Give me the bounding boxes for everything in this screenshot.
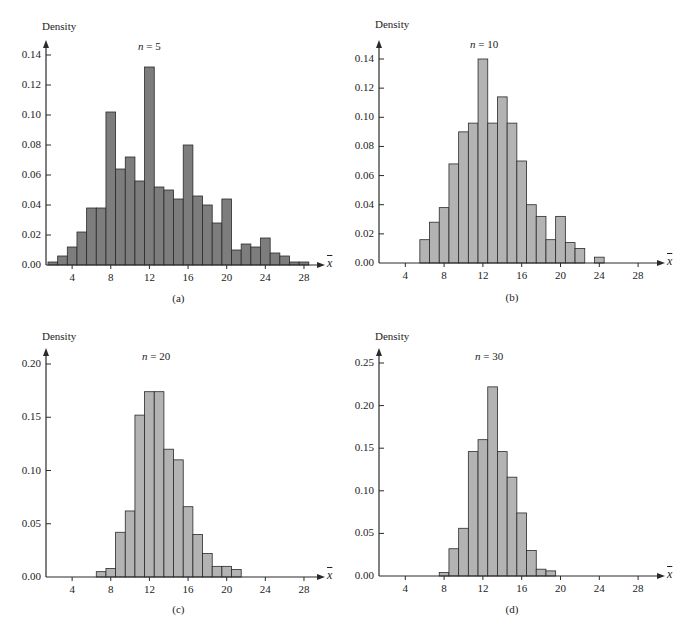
histogram-bar xyxy=(546,240,556,263)
x-tick-label: 16 xyxy=(512,582,532,594)
histogram-bar xyxy=(106,568,116,577)
histogram-bar xyxy=(507,123,517,263)
y-axis-arrow-icon xyxy=(43,40,49,48)
histogram-bar xyxy=(145,392,155,577)
x-tick-label: 20 xyxy=(551,269,571,281)
histogram-bar xyxy=(241,244,251,265)
x-bar-symbol: x xyxy=(667,567,672,581)
histogram-bar xyxy=(135,415,145,577)
x-tick-label: 24 xyxy=(589,269,609,281)
histogram-bar xyxy=(507,477,517,576)
x-bar-axis-label: x xyxy=(327,568,332,583)
x-axis-arrow-icon xyxy=(317,574,325,580)
sample-size-title: n = 5 xyxy=(138,40,161,52)
x-tick-label: 24 xyxy=(589,582,609,594)
histogram-bar xyxy=(96,208,106,265)
histogram-bar xyxy=(517,513,527,576)
histogram-bar xyxy=(106,112,116,265)
histogram-bar xyxy=(527,205,537,263)
histogram-bar xyxy=(565,243,575,263)
sample-size-title: n = 10 xyxy=(470,38,498,50)
histogram-panel-b: Density n = 10 x (b) 0.000.020.040.060.0… xyxy=(345,0,688,314)
histogram-bar xyxy=(212,566,222,577)
histogram-bar xyxy=(251,247,261,265)
histogram-plot xyxy=(0,0,344,314)
histogram-bar xyxy=(164,190,174,265)
y-tick-label: 0.15 xyxy=(344,441,374,453)
y-axis-arrow-icon xyxy=(376,348,382,356)
histogram-bar xyxy=(58,256,68,265)
y-tick-label: 0.15 xyxy=(11,410,41,422)
x-tick-label: 8 xyxy=(434,582,454,594)
histogram-bar xyxy=(203,554,213,577)
histogram-bar xyxy=(164,449,174,577)
histogram-bar xyxy=(459,528,469,576)
x-tick-label: 12 xyxy=(473,582,493,594)
histogram-bar xyxy=(488,387,498,576)
x-tick-label: 4 xyxy=(62,271,82,283)
x-tick-label: 28 xyxy=(628,582,648,594)
histogram-plot xyxy=(0,320,344,628)
y-axis-label: Density xyxy=(375,18,409,30)
y-tick-label: 0.02 xyxy=(344,227,374,239)
x-bar-symbol: x xyxy=(327,568,332,582)
histogram-bar xyxy=(183,145,193,265)
x-tick-label: 8 xyxy=(101,271,121,283)
histogram-panel-d: Density n = 30 x (d) 0.000.050.100.150.2… xyxy=(345,320,688,628)
histogram-bar xyxy=(203,205,213,265)
x-tick-label: 4 xyxy=(395,582,415,594)
panel-caption: (c) xyxy=(163,603,193,615)
x-tick-label: 4 xyxy=(395,269,415,281)
n-value: = 20 xyxy=(148,350,171,362)
histogram-bar xyxy=(280,256,290,265)
y-tick-label: 0.20 xyxy=(344,399,374,411)
y-tick-label: 0.14 xyxy=(344,52,374,64)
y-axis-label: Density xyxy=(42,20,76,32)
histogram-bar xyxy=(145,67,155,265)
y-tick-label: 0.00 xyxy=(344,256,374,268)
y-tick-label: 0.10 xyxy=(344,484,374,496)
y-tick-label: 0.12 xyxy=(11,78,41,90)
histogram-bar xyxy=(222,199,232,265)
x-tick-label: 12 xyxy=(473,269,493,281)
y-tick-label: 0.08 xyxy=(344,139,374,151)
histogram-bar xyxy=(154,392,164,577)
x-tick-label: 4 xyxy=(62,583,82,595)
y-tick-label: 0.04 xyxy=(344,198,374,210)
histogram-bar xyxy=(67,247,77,265)
histogram-bar xyxy=(174,460,184,577)
y-tick-label: 0.08 xyxy=(11,138,41,150)
histogram-bar xyxy=(575,248,585,263)
y-tick-label: 0.25 xyxy=(344,356,374,368)
histogram-bar xyxy=(536,216,546,263)
x-tick-label: 28 xyxy=(628,269,648,281)
histogram-bar xyxy=(174,199,184,265)
y-axis-label: Density xyxy=(42,330,76,342)
y-tick-label: 0.06 xyxy=(344,169,374,181)
y-tick-label: 0.10 xyxy=(344,110,374,122)
x-tick-label: 24 xyxy=(255,271,275,283)
x-tick-label: 28 xyxy=(294,271,314,283)
sample-size-title: n = 30 xyxy=(475,350,503,362)
histogram-bar xyxy=(222,566,232,577)
y-tick-label: 0.04 xyxy=(11,198,41,210)
histogram-bar xyxy=(420,240,430,263)
x-bar-symbol: x xyxy=(327,256,332,270)
histogram-bar xyxy=(546,571,556,576)
histogram-panel-c: Density n = 20 x (c) 0.000.050.100.150.2… xyxy=(0,320,344,628)
y-tick-label: 0.00 xyxy=(11,570,41,582)
x-bar-axis-label: x xyxy=(327,256,332,271)
histogram-bar xyxy=(212,223,222,265)
y-axis-arrow-icon xyxy=(376,40,382,48)
y-tick-label: 0.00 xyxy=(11,258,41,270)
x-bar-axis-label: x xyxy=(667,254,672,269)
x-axis-arrow-icon xyxy=(657,573,665,579)
y-tick-label: 0.06 xyxy=(11,168,41,180)
n-value: = 10 xyxy=(476,38,499,50)
histogram-bar xyxy=(556,216,566,263)
histogram-bar xyxy=(468,123,478,263)
histogram-bar xyxy=(497,97,507,263)
x-bar-axis-label: x xyxy=(667,567,672,582)
x-tick-label: 20 xyxy=(551,582,571,594)
histogram-bar xyxy=(270,253,280,265)
